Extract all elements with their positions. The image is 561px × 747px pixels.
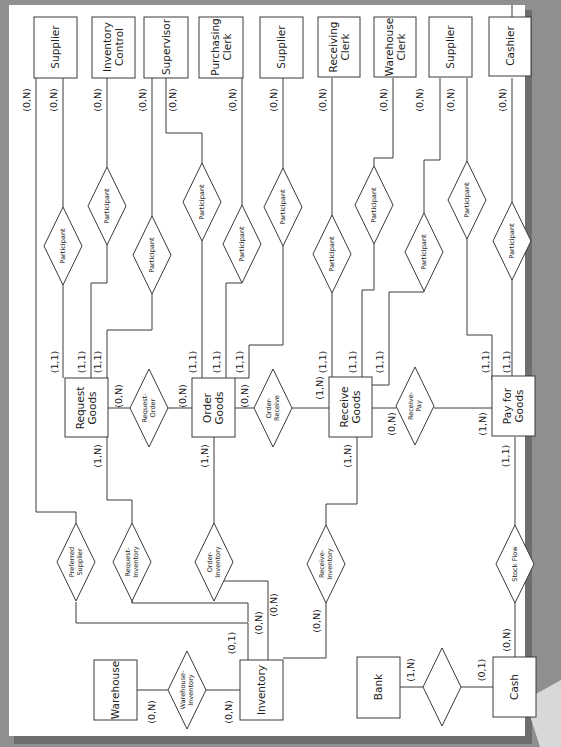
cardinality: (0,N)	[137, 88, 148, 112]
cardinality: (0,N)	[311, 609, 322, 633]
entity-label: Goods	[213, 391, 225, 424]
rel-label: Participant	[420, 234, 428, 270]
cardinality: (0,N)	[146, 700, 157, 724]
cardinality: (1,N)	[92, 444, 103, 468]
rel-label: Warehouse-	[179, 670, 187, 710]
entity-purchasing-clerk[interactable]: Purchasing Clerk	[199, 17, 243, 78]
cardinality: (0,N)	[113, 384, 124, 408]
entity-receiving-clerk[interactable]: Receiving Clerk	[318, 17, 360, 77]
rel-label: Participant	[238, 226, 246, 262]
rel-label: Participant	[59, 228, 67, 264]
rel-label: Receive	[273, 395, 281, 421]
rel-label: Participant	[148, 237, 156, 273]
rel-label: Participant	[103, 188, 111, 224]
cardinality: (0,N)	[227, 88, 238, 112]
rel-label: Pay	[415, 400, 423, 412]
entity-label: Goods	[350, 390, 362, 423]
cardinality: (0,N)	[92, 88, 103, 112]
entity-label: Order	[201, 392, 213, 423]
entity-supplier-1[interactable]: Supplier	[34, 17, 77, 78]
cardinality: (1,1)	[49, 351, 60, 374]
cardinality: (1,1)	[234, 351, 245, 374]
rel-label: Supplier	[76, 548, 84, 575]
rel-label: Participant	[328, 236, 336, 272]
entity-label: Cashier	[504, 26, 516, 66]
cardinality: (1,N)	[342, 444, 353, 468]
entity-label: Control	[113, 28, 125, 66]
entity-warehouse[interactable]: Warehouse	[94, 660, 137, 720]
entity-label: Supplier	[49, 25, 61, 69]
entity-label: Bank	[372, 673, 384, 700]
cardinality: (0,N)	[223, 700, 234, 724]
cardinality: (0,N)	[378, 88, 389, 112]
entity-label: Purchasing	[209, 18, 221, 75]
rel-label: Preferred	[68, 547, 76, 577]
entity-order-goods[interactable]: Order Goods	[192, 378, 235, 437]
cardinality: (0,N)	[167, 88, 178, 112]
entity-inventory-control[interactable]: Inventory Control	[92, 17, 135, 78]
cardinality: (1,N)	[405, 658, 416, 682]
rel-label: Stock Flow	[511, 546, 519, 582]
entity-label: Receiving	[327, 22, 339, 73]
rel-label: Participant	[370, 187, 378, 223]
entity-warehouse-clerk[interactable]: Warehouse Clerk	[374, 17, 416, 77]
rel-label: Order	[149, 398, 157, 417]
entity-bank[interactable]: Bank	[357, 657, 400, 718]
entity-label: Clerk	[339, 33, 351, 61]
cardinality: (1,1)	[187, 351, 198, 374]
cardinality: (1,1)	[500, 445, 511, 468]
entity-receive-goods[interactable]: Receive Goods	[329, 377, 372, 437]
entity-supervisor[interactable]: Supervisor	[144, 17, 188, 78]
entity-request-goods[interactable]: Request Goods	[65, 378, 108, 437]
cardinality: (0,N)	[21, 88, 32, 112]
entity-pay-for-goods[interactable]: Pay for Goods	[492, 376, 535, 436]
entity-label: Clerk	[395, 33, 407, 61]
cardinality: (0,N)	[253, 611, 264, 635]
rel-label: Order-	[206, 551, 214, 572]
entity-cash[interactable]: Cash	[493, 657, 536, 717]
cardinality: (0,N)	[48, 88, 59, 112]
rel-label: Receive-	[407, 391, 415, 420]
cardinality: (0,N)	[386, 412, 397, 436]
rel-label: Participant	[279, 189, 287, 225]
cardinality: (1,1)	[480, 351, 491, 374]
rel-label: Inventory	[326, 548, 334, 580]
cardinality: (0,N)	[445, 88, 456, 112]
er-diagram: Supplier Inventory Control Supervisor Pu…	[0, 0, 561, 747]
entity-supplier-2[interactable]: Supplier	[260, 17, 303, 78]
cardinality: (1,1)	[211, 351, 222, 374]
cardinality: (0,1)	[476, 659, 487, 682]
cardinality: (0,N)	[317, 88, 328, 112]
rel-label: Inventory	[214, 546, 222, 578]
rel-label: Participant	[463, 182, 471, 218]
entity-label: Inventory	[101, 22, 113, 72]
entity-label: Warehouse	[109, 661, 121, 719]
cardinality: (0,N)	[414, 88, 425, 112]
rel-label: Inventory	[187, 674, 195, 706]
rel-label: Receive-	[318, 549, 326, 578]
entity-label: Clerk	[221, 33, 233, 61]
cardinality: (0,N)	[268, 88, 279, 112]
rel-label: Inventory	[132, 546, 140, 578]
rel-label: Participant	[508, 223, 516, 259]
rel-label: Participant	[198, 184, 206, 220]
entity-label: Goods	[86, 391, 98, 424]
rel-label: Order-	[265, 397, 273, 418]
cardinality: (0,N)	[268, 593, 279, 617]
cardinality: (1,N)	[199, 444, 210, 468]
entity-inventory[interactable]: Inventory	[240, 660, 283, 720]
entity-label: Warehouse	[383, 18, 395, 76]
entity-cashier[interactable]: Cashier	[489, 17, 531, 76]
entity-label: Receive	[338, 386, 350, 427]
cardinality: (1,1)	[501, 351, 512, 374]
entity-supplier-3[interactable]: Supplier	[429, 17, 472, 77]
entity-label: Cash	[508, 674, 520, 700]
entity-label: Goods	[513, 389, 525, 422]
cardinality: (1,1)	[76, 351, 87, 374]
cardinality: (1,1)	[347, 351, 358, 374]
entity-label: Request	[74, 387, 86, 430]
rel-label: Request-	[141, 393, 149, 423]
cardinality: (1,1)	[317, 351, 328, 374]
cardinality: (0,1)	[226, 632, 237, 655]
cardinality: (1,N)	[477, 412, 488, 436]
